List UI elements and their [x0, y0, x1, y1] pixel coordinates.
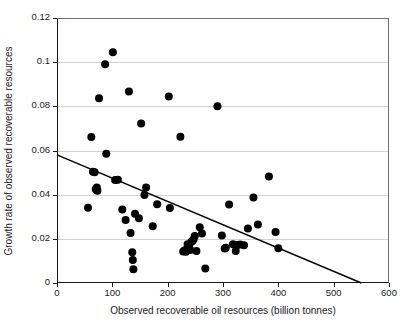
data-point	[192, 247, 200, 255]
y-tick-3: 0.06	[0, 145, 50, 157]
data-point	[218, 232, 226, 240]
data-point	[101, 60, 109, 68]
y-tick-label-1: 0.02	[32, 233, 51, 243]
data-point	[198, 230, 206, 238]
x-tick-label-1: 100	[92, 288, 132, 298]
data-point	[129, 256, 137, 264]
scatter-plot-figure: Growth rate of observed recoverable reso…	[0, 0, 411, 332]
data-point	[95, 94, 103, 102]
x-tick-mark-0	[57, 283, 58, 287]
x-tick-1: 100	[92, 288, 132, 300]
x-tick-mark-2	[168, 283, 169, 287]
data-point	[213, 102, 221, 110]
data-point	[128, 248, 136, 256]
data-point	[114, 176, 122, 184]
y-tick-label-5: 0.1	[37, 56, 50, 66]
data-point	[149, 222, 157, 230]
x-tick-label-5: 500	[314, 288, 354, 298]
x-tick-mark-1	[112, 283, 113, 287]
y-tick-label-3: 0.06	[32, 145, 51, 155]
x-tick-0: 0	[37, 288, 77, 300]
x-tick-2: 200	[148, 288, 188, 300]
x-tick-label-4: 400	[258, 288, 298, 298]
data-point	[265, 173, 273, 181]
data-point	[127, 229, 135, 237]
y-tick-1: 0.02	[0, 233, 50, 245]
data-point	[222, 244, 230, 252]
data-point	[135, 214, 143, 222]
data-point	[93, 187, 101, 195]
data-point	[274, 244, 282, 252]
y-tick-label-0: 0	[45, 277, 50, 287]
x-tick-label-0: 0	[37, 288, 77, 298]
data-point	[91, 168, 99, 176]
data-point	[272, 228, 280, 236]
data-point	[84, 204, 92, 212]
data-point	[165, 92, 173, 100]
y-tick-label-2: 0.04	[32, 189, 51, 199]
data-point	[176, 133, 184, 141]
x-tick-6: 600	[369, 288, 409, 300]
data-point	[125, 88, 133, 96]
data-point	[102, 150, 110, 158]
x-tick-5: 500	[314, 288, 354, 300]
y-tick-5: 0.1	[0, 56, 50, 68]
x-tick-mark-3	[223, 283, 224, 287]
data-point	[240, 241, 248, 249]
data-point	[109, 48, 117, 56]
data-point	[129, 265, 137, 273]
data-point	[118, 205, 126, 213]
scatter-points-group	[84, 48, 282, 273]
plot-area	[57, 18, 389, 283]
x-tick-label-2: 200	[148, 288, 188, 298]
regression-trendline	[57, 155, 361, 283]
x-axis-title: Observed recoverable oil resources (bill…	[57, 305, 389, 316]
data-layer	[57, 18, 389, 283]
data-point	[201, 264, 209, 272]
data-point	[249, 194, 257, 202]
data-point	[142, 183, 150, 191]
data-point	[191, 232, 199, 240]
x-tick-mark-6	[389, 283, 390, 287]
data-point	[140, 191, 148, 199]
y-tick-label-6: 0.12	[32, 12, 51, 22]
data-point	[225, 201, 233, 209]
data-point	[244, 224, 252, 232]
data-point	[87, 133, 95, 141]
y-tick-4: 0.08	[0, 100, 50, 112]
x-tick-mark-4	[278, 283, 279, 287]
x-tick-4: 400	[258, 288, 298, 300]
data-point	[122, 216, 130, 224]
x-tick-3: 300	[203, 288, 243, 300]
data-point	[153, 200, 161, 208]
y-tick-2: 0.04	[0, 189, 50, 201]
x-tick-label-3: 300	[203, 288, 243, 298]
y-tick-6: 0.12	[0, 12, 50, 24]
data-point	[166, 204, 174, 212]
y-tick-label-4: 0.08	[32, 100, 51, 110]
x-tick-mark-5	[334, 283, 335, 287]
data-point	[137, 120, 145, 128]
data-point	[254, 220, 262, 228]
x-tick-label-6: 600	[369, 288, 409, 298]
